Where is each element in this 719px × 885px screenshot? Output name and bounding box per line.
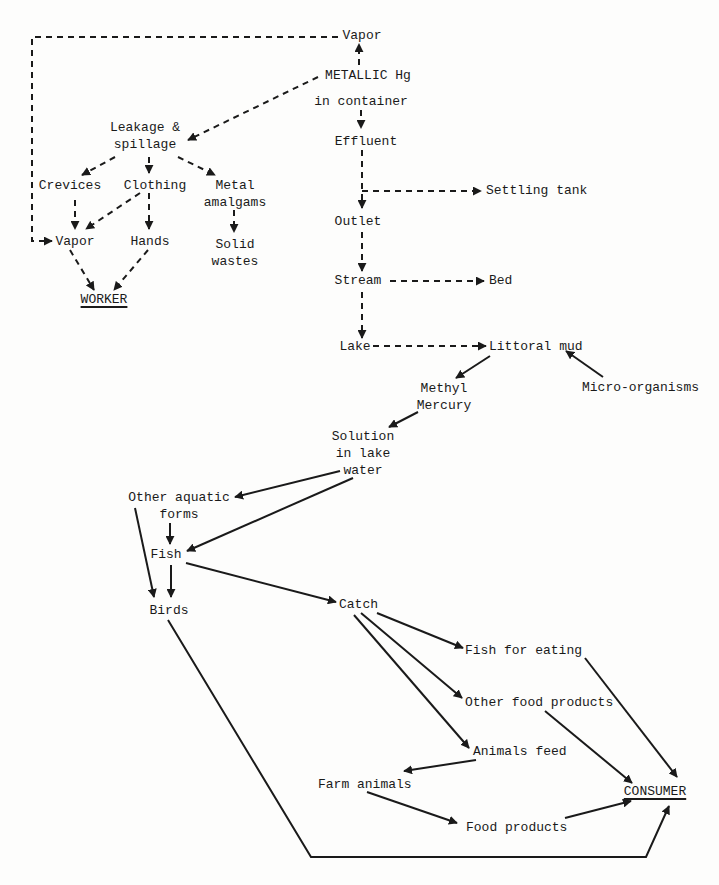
node-other-food-products: Other food products xyxy=(465,694,613,711)
node-lake: Lake xyxy=(339,338,370,355)
node-worker: WORKER xyxy=(81,291,128,308)
node-leakage-spillage: Leakage & spillage xyxy=(110,119,180,153)
node-hands: Hands xyxy=(130,233,169,250)
node-fish-for-eating: Fish for eating xyxy=(465,642,582,659)
node-settling-tank: Settling tank xyxy=(486,182,587,199)
node-other-aquatic-forms: Other aquatic forms xyxy=(128,489,229,523)
node-vapor-worker: Vapor xyxy=(55,233,94,250)
node-outlet: Outlet xyxy=(335,213,382,230)
node-bed: Bed xyxy=(489,272,512,289)
node-vapor-top: Vapor xyxy=(342,27,381,44)
node-solid-wastes: Solid wastes xyxy=(212,236,259,270)
node-effluent: Effluent xyxy=(335,133,397,150)
node-farm-animals: Farm animals xyxy=(318,776,412,793)
mercury-pathway-diagram: Vapor METALLIC Hg in container Leakage &… xyxy=(0,0,719,885)
node-crevices: Crevices xyxy=(39,177,101,194)
node-animals-feed: Animals feed xyxy=(473,743,567,760)
node-consumer: CONSUMER xyxy=(624,783,686,800)
node-stream: Stream xyxy=(335,272,382,289)
node-catch: Catch xyxy=(339,596,378,613)
node-metallic-hg: METALLIC Hg xyxy=(325,67,411,84)
node-in-container: in container xyxy=(314,93,408,110)
node-methyl-mercury: Methyl Mercury xyxy=(417,380,472,414)
node-fish: Fish xyxy=(150,546,181,563)
node-food-products: Food products xyxy=(466,819,567,836)
node-metal-amalgams: Metal amalgams xyxy=(204,177,266,211)
node-micro-organisms: Micro-organisms xyxy=(582,379,699,396)
node-clothing: Clothing xyxy=(124,177,186,194)
node-birds: Birds xyxy=(149,602,188,619)
node-solution-lake-water: Solution in lake water xyxy=(332,428,394,479)
node-littoral-mud: Littoral mud xyxy=(489,338,583,355)
